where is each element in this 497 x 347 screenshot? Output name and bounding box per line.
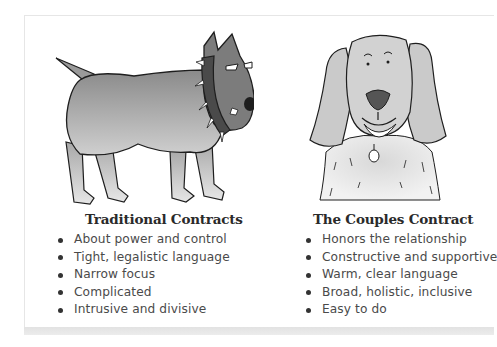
bullet-icon xyxy=(58,238,63,243)
list-item: Complicated xyxy=(54,284,254,302)
friendly-dog-illustration xyxy=(306,32,456,202)
bullet-icon xyxy=(306,273,311,278)
column-title: The Couples Contract xyxy=(302,211,492,227)
list-item: Tight, legalistic language xyxy=(54,249,254,267)
bullet-icon xyxy=(58,290,63,295)
bullet-list: Honors the relationship Constructive and… xyxy=(302,231,492,319)
bullet-icon xyxy=(306,238,311,243)
panel-shadow xyxy=(24,327,494,335)
list-item: Warm, clear language xyxy=(302,266,492,284)
list-item: Easy to do xyxy=(302,301,492,319)
column-title: Traditional Contracts xyxy=(54,211,254,227)
list-item: Honors the relationship xyxy=(302,231,492,249)
bullet-icon xyxy=(58,308,63,313)
list-item: Constructive and supportive xyxy=(302,249,492,267)
traditional-contracts-column: Traditional Contracts About power and co… xyxy=(54,211,254,319)
angry-dog-illustration xyxy=(54,26,254,206)
list-item: Broad, holistic, inclusive xyxy=(302,284,492,302)
bullet-list: About power and control Tight, legalisti… xyxy=(54,231,254,319)
bullet-icon xyxy=(306,290,311,295)
list-item: About power and control xyxy=(54,231,254,249)
couples-contract-column: The Couples Contract Honors the relation… xyxy=(302,211,492,319)
list-item: Intrusive and divisive xyxy=(54,301,254,319)
bullet-icon xyxy=(306,255,311,260)
bullet-icon xyxy=(306,308,311,313)
list-item: Narrow focus xyxy=(54,266,254,284)
bullet-icon xyxy=(58,255,63,260)
bullet-icon xyxy=(58,273,63,278)
